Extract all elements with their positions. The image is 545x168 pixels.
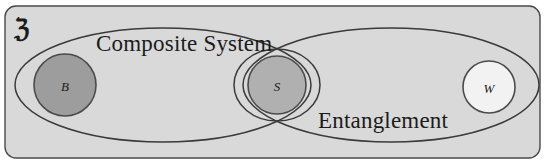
universe-symbol: ℨ <box>13 14 29 43</box>
composite-system-label: Composite System <box>96 31 272 56</box>
node-label-s: S <box>274 79 281 94</box>
node-label-b: B <box>61 79 69 94</box>
entanglement-label: Entanglement <box>318 108 449 133</box>
diagram-canvas: B S W Composite System Entanglement ℨ <box>0 0 545 168</box>
venn-diagram-figure: B S W Composite System Entanglement ℨ <box>0 0 545 168</box>
node-label-w: W <box>484 81 496 96</box>
